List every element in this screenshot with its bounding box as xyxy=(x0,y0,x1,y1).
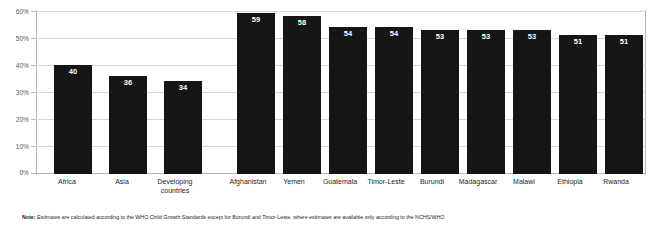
x-axis-label-afghanistan: Afghanistan xyxy=(225,178,271,187)
bar-slot: 51 xyxy=(605,10,643,174)
x-axis-label-malawi: Malawi xyxy=(501,178,547,187)
bar-asia[interactable]: 36 xyxy=(109,76,147,174)
y-tick-label: 10% xyxy=(3,143,29,150)
bar-value-label: 34 xyxy=(164,83,202,92)
bar-slot: 51 xyxy=(559,10,597,174)
y-tick-label: 20% xyxy=(3,116,29,123)
y-tick-label: 60% xyxy=(3,8,29,15)
x-axis-label-africa: Africa xyxy=(44,178,90,187)
bar-value-label: 36 xyxy=(109,78,147,87)
x-axis-label-guatemala: Guatemala xyxy=(317,178,363,187)
bar-slot: 53 xyxy=(467,10,505,174)
bar-slot: 58 xyxy=(283,10,321,174)
bar-slot: 54 xyxy=(329,10,367,174)
chart-footnote: Note: Estimates are calculated according… xyxy=(22,214,647,220)
footnote-label: Note: xyxy=(22,214,36,220)
bar-malawi[interactable]: 53 xyxy=(513,30,551,174)
bar-value-label: 54 xyxy=(329,29,367,38)
bar-value-label: 59 xyxy=(237,15,275,24)
bar-value-label: 54 xyxy=(375,29,413,38)
x-axis-label-developing-countries: Developing countries xyxy=(152,178,198,195)
bar-slot: 53 xyxy=(513,10,551,174)
x-axis-label-timor-leste: Timor-Leste xyxy=(363,178,409,187)
x-axis-label-ethiopia: Ethiopia xyxy=(547,178,593,187)
y-axis: 60% 50% 40% 30% 20% 10% 0% xyxy=(0,0,29,226)
bar-africa[interactable]: 40 xyxy=(54,65,92,174)
chart-figure: 60% 50% 40% 30% 20% 10% 0% 40 36 xyxy=(0,0,657,226)
bar-value-label: 53 xyxy=(513,32,551,41)
bar-value-label: 58 xyxy=(283,18,321,27)
bar-timor-leste[interactable]: 54 xyxy=(375,27,413,174)
bar-slot: 54 xyxy=(375,10,413,174)
bar-burundi[interactable]: 53 xyxy=(421,30,459,174)
bar-value-label: 53 xyxy=(467,32,505,41)
y-tick-label: 40% xyxy=(3,62,29,69)
y-tick-label: 0% xyxy=(3,169,29,176)
bar-value-label: 51 xyxy=(605,37,643,46)
bar-value-label: 40 xyxy=(54,67,92,76)
x-axis-label-burundi: Burundi xyxy=(409,178,455,187)
footnote-text: Estimates are calculated according to th… xyxy=(36,214,445,220)
plot-area: 40 36 34 59 58 54 xyxy=(36,10,646,174)
x-axis-label-asia: Asia xyxy=(99,178,145,187)
bar-madagascar[interactable]: 53 xyxy=(467,30,505,174)
x-axis-label-rwanda: Rwanda xyxy=(593,178,639,187)
bar-rwanda[interactable]: 51 xyxy=(605,35,643,174)
bar-guatemala[interactable]: 54 xyxy=(329,27,367,174)
y-tick-label: 30% xyxy=(3,89,29,96)
bar-slot: 36 xyxy=(109,10,147,174)
bar-value-label: 53 xyxy=(421,32,459,41)
bar-ethiopia[interactable]: 51 xyxy=(559,35,597,174)
bar-value-label: 51 xyxy=(559,37,597,46)
bar-developing-countries[interactable]: 34 xyxy=(164,81,202,174)
bar-yemen[interactable]: 58 xyxy=(283,16,321,174)
bar-slot: 34 xyxy=(164,10,202,174)
bar-slot: 53 xyxy=(421,10,459,174)
bar-slot: 40 xyxy=(54,10,92,174)
bar-afghanistan[interactable]: 59 xyxy=(237,13,275,174)
x-axis-label-madagascar: Madagascar xyxy=(455,178,501,187)
y-tick-label: 50% xyxy=(3,35,29,42)
bar-slot: 59 xyxy=(237,10,275,174)
x-axis-label-yemen: Yemen xyxy=(271,178,317,187)
